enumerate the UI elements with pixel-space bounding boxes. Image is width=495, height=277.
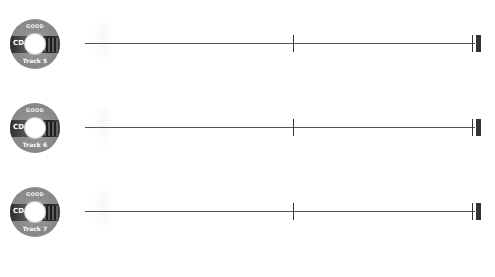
end-marker-thin [472,203,473,220]
end-marker-thick[interactable] [476,119,481,136]
track-row-6[interactable]: GOOD CD 2 Track 6 [0,98,495,158]
disc-label: CD 2 [13,123,31,131]
progress-track[interactable] [85,127,475,128]
disc-label: CD 2 [13,39,31,47]
faint-figure [92,22,114,66]
playhead-marker[interactable] [293,119,294,136]
disc-title: GOOD [10,23,60,29]
track-label: Track 7 [10,225,60,232]
end-marker-thick[interactable] [476,203,481,220]
progress-track[interactable] [85,43,475,44]
cd-disc-icon[interactable]: GOOD CD 2 Track 5 [10,19,60,69]
progress-track[interactable] [85,211,475,212]
end-marker-thick[interactable] [476,35,481,52]
track-row-7[interactable]: GOOD CD 2 Track 7 [0,182,495,242]
disc-title: GOOD [10,191,60,197]
faint-figure [92,106,114,150]
track-label: Track 5 [10,57,60,64]
disc-label: CD 2 [13,207,31,215]
cd-disc-icon[interactable]: GOOD CD 2 Track 6 [10,103,60,153]
playhead-marker[interactable] [293,35,294,52]
playhead-marker[interactable] [293,203,294,220]
end-marker-thin [472,35,473,52]
faint-figure [92,190,114,234]
disc-title: GOOD [10,107,60,113]
track-label: Track 6 [10,141,60,148]
end-marker-thin [472,119,473,136]
track-row-5[interactable]: GOOD CD 2 Track 5 [0,14,495,74]
cd-disc-icon[interactable]: GOOD CD 2 Track 7 [10,187,60,237]
